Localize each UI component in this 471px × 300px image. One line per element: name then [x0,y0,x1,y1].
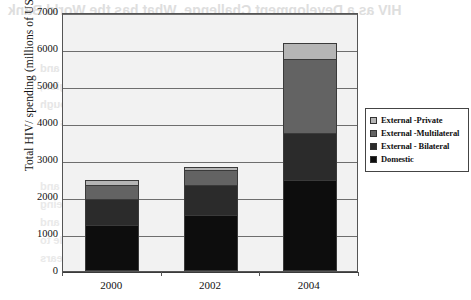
x-axis-tick-mark [161,272,162,276]
bar-2004[interactable] [283,43,337,271]
legend-swatch-icon [370,156,377,163]
x-axis-tick-mark [259,272,260,276]
bar-2002[interactable] [184,167,238,271]
x-axis-tick-label: 2000 [81,279,141,291]
legend-item[interactable]: External -Multilateral [370,128,465,138]
bar-segment[interactable] [185,185,237,215]
legend-swatch-icon [370,117,377,124]
y-axis-tick-label: 0 [12,266,58,277]
bar-segment[interactable] [284,133,336,180]
legend-item[interactable]: External -Private [370,115,465,125]
y-axis-tick-label: 2000 [12,192,58,203]
legend-item[interactable]: Domestic [370,154,465,164]
bar-segment[interactable] [86,185,138,198]
bar-segment[interactable] [284,44,336,59]
legend-swatch-icon [370,130,377,137]
bar-segment[interactable] [284,59,336,133]
bar-series-container [63,14,357,271]
x-axis-tick-mark [358,272,359,276]
stacked-bar-chart: Total HIV/ spending (millions of US doll… [0,0,471,300]
y-axis-tick-label: 3000 [12,155,58,166]
chart-legend: External -PrivateExternal -MultilateralE… [365,108,469,172]
bar-segment[interactable] [185,170,237,185]
x-axis-tick-label: 2004 [279,279,339,291]
x-axis-tick-label: 2002 [180,279,240,291]
legend-swatch-icon [370,143,377,150]
legend-item-label: External - Bilateral [381,141,449,151]
x-axis-line [62,272,358,273]
y-axis-tick-labels: 01000200030004000500060007000 [10,0,58,300]
y-axis-tick-label: 1000 [12,229,58,240]
legend-item-label: External -Multilateral [381,128,459,138]
y-axis-tick-label: 6000 [12,44,58,55]
y-axis-tick-label: 7000 [12,7,58,18]
bar-segment[interactable] [86,199,138,225]
x-axis-tick-mark [62,272,63,276]
y-axis-tick-label: 5000 [12,81,58,92]
legend-item-label: Domestic [381,154,414,164]
bar-segment[interactable] [86,225,138,270]
bar-segment[interactable] [284,180,336,270]
bar-segment[interactable] [185,215,237,270]
legend-item-label: External -Private [381,115,442,125]
y-axis-tick-label: 4000 [12,118,58,129]
bar-2000[interactable] [85,180,139,271]
legend-item[interactable]: External - Bilateral [370,141,465,151]
plot-area [62,13,358,272]
